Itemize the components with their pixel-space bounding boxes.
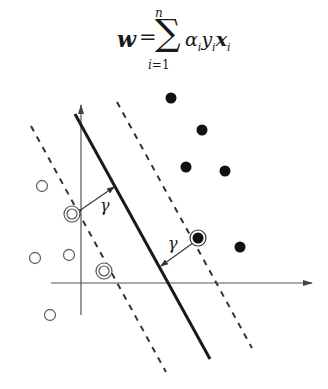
positive-support-vector xyxy=(190,230,206,246)
negative-point xyxy=(30,253,41,264)
positive-point xyxy=(166,93,177,104)
negative-margin-line xyxy=(31,126,166,372)
negative-point xyxy=(37,181,48,192)
positive-point xyxy=(220,166,231,177)
negative-point xyxy=(45,310,56,321)
negative-support-vector xyxy=(64,206,80,222)
svm-diagram: γ γ xyxy=(0,0,328,389)
negative-point xyxy=(64,250,75,261)
negative-support-vector xyxy=(96,263,112,279)
gamma-label-right: γ xyxy=(168,234,178,253)
svm-figure: w = n ∑ i=1 αiyixi γ γ xyxy=(0,0,328,389)
gamma-label-left: γ xyxy=(100,196,110,215)
positive-point xyxy=(197,125,208,136)
positive-point xyxy=(181,162,192,173)
positive-point xyxy=(235,242,246,253)
